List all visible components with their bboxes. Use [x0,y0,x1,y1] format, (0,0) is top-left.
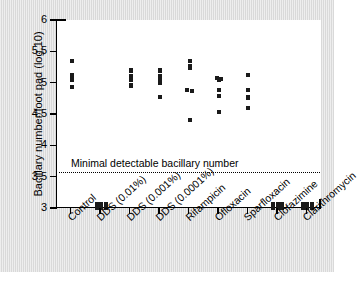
data-point [246,73,250,77]
data-point [188,59,192,63]
data-point [70,85,74,89]
y-axis-tick-label: 6 [41,14,47,25]
y-axis-tick-label: 3 [41,202,47,213]
y-axis-tick-label: 5.5 [32,45,47,56]
data-point [246,88,250,92]
data-point [185,88,189,92]
data-point [129,78,133,82]
data-point [158,69,162,73]
data-point [188,118,192,122]
threshold-annotation-label: Minimal detectable bacillary number [71,157,239,169]
axis-top-cap [56,19,66,21]
y-axis-tick-label: 4.5 [32,108,47,119]
minimal-detectable-threshold-line [59,172,320,173]
data-point [129,84,133,88]
data-point [188,66,192,70]
data-point [217,94,221,98]
caption-strip [0,272,334,292]
data-point [217,88,221,92]
data-point [70,59,74,63]
data-point [158,95,162,99]
data-point [158,81,162,85]
data-point [70,78,74,82]
data-point [246,106,250,110]
y-axis-tick-label: 4 [41,139,47,150]
data-point [129,69,133,73]
y-axis-tick-label: 3.5 [32,171,47,182]
data-point [246,96,250,100]
data-point [217,110,221,114]
y-axis-tick-label: 5 [41,77,47,88]
data-point [217,78,221,82]
data-point [190,89,194,93]
